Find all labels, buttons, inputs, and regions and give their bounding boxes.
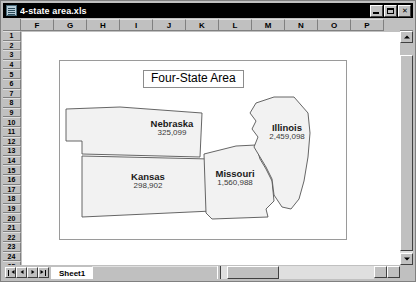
row-header-6[interactable]: 6 <box>3 79 21 89</box>
column-header-g[interactable]: G <box>54 19 87 31</box>
chart-title: Four-State Area <box>143 70 244 88</box>
row-header-21[interactable]: 21 <box>3 223 21 233</box>
column-header-n[interactable]: N <box>285 19 318 31</box>
column-header-j[interactable]: J <box>153 19 186 31</box>
scroll-up-button[interactable] <box>400 31 413 43</box>
row-header-5[interactable]: 5 <box>3 69 21 79</box>
label-nebraska: Nebraska 325,099 <box>122 119 222 137</box>
label-missouri-value: 1,560,988 <box>190 179 280 187</box>
row-header-24[interactable]: 24 <box>3 252 21 262</box>
row-header-2[interactable]: 2 <box>3 41 21 51</box>
row-header-14[interactable]: 14 <box>3 156 21 166</box>
horizontal-scrollbar[interactable] <box>217 265 413 279</box>
column-header-p[interactable]: P <box>351 19 384 31</box>
column-header-i[interactable]: I <box>120 19 153 31</box>
window-resize-grip[interactable] <box>400 266 413 279</box>
scroll-left-button[interactable] <box>374 266 387 278</box>
window-title: 4-state area.xls <box>20 6 370 16</box>
row-header-3[interactable]: 3 <box>3 50 21 60</box>
map-chart-object[interactable]: Four-State Area Nebraska 325,099 Kansas … <box>59 60 347 240</box>
row-header-20[interactable]: 20 <box>3 213 21 223</box>
spreadsheet-area: FGHIJKLMNOP 1234567891011121314151617181… <box>3 19 413 279</box>
horizontal-scroll-track[interactable] <box>221 266 374 279</box>
label-illinois-value: 2,459,098 <box>242 133 332 141</box>
column-header-k[interactable]: K <box>186 19 219 31</box>
row-header-13[interactable]: 13 <box>3 146 21 156</box>
column-header-o[interactable]: O <box>318 19 351 31</box>
row-header-10[interactable]: 10 <box>3 117 21 127</box>
excel-workbook-icon <box>6 5 17 16</box>
maximize-button[interactable] <box>384 5 397 17</box>
column-header-l[interactable]: L <box>219 19 252 31</box>
sheet-tab-bar: Sheet1 <box>3 265 413 279</box>
vertical-scroll-track[interactable] <box>400 55 413 265</box>
row-header-1[interactable]: 1 <box>3 31 21 41</box>
window-title-bar: 4-state area.xls ✕ <box>3 3 413 18</box>
row-header-17[interactable]: 17 <box>3 185 21 195</box>
column-header-m[interactable]: M <box>252 19 285 31</box>
window-controls: ✕ <box>370 5 411 17</box>
row-header-4[interactable]: 4 <box>3 60 21 70</box>
row-headers: 1234567891011121314151617181920212223242… <box>3 31 21 271</box>
column-headers: FGHIJKLMNOP <box>21 19 400 31</box>
label-missouri: Missouri 1,560,988 <box>190 169 280 187</box>
close-button[interactable]: ✕ <box>398 5 411 17</box>
row-header-18[interactable]: 18 <box>3 194 21 204</box>
row-header-23[interactable]: 23 <box>3 242 21 252</box>
worksheet-grid[interactable]: Four-State Area Nebraska 325,099 Kansas … <box>22 32 400 277</box>
row-header-19[interactable]: 19 <box>3 204 21 214</box>
next-sheet-button[interactable] <box>27 267 38 278</box>
horizontal-scroll-thumb[interactable] <box>227 266 279 279</box>
row-header-9[interactable]: 9 <box>3 108 21 118</box>
row-header-15[interactable]: 15 <box>3 165 21 175</box>
sheet-tab-sheet1[interactable]: Sheet1 <box>51 267 93 279</box>
vertical-scrollbar[interactable] <box>400 31 413 265</box>
scroll-right-button[interactable] <box>387 266 400 278</box>
row-header-11[interactable]: 11 <box>3 127 21 137</box>
label-kansas: Kansas 298,902 <box>98 172 198 190</box>
column-header-f[interactable]: F <box>21 19 54 31</box>
vertical-scroll-thumb[interactable] <box>400 55 413 251</box>
row-header-7[interactable]: 7 <box>3 89 21 99</box>
excel-window: 4-state area.xls ✕ FGHIJKLMNOP 123456789… <box>0 0 416 282</box>
first-sheet-button[interactable] <box>5 267 16 278</box>
label-kansas-value: 298,902 <box>98 182 198 190</box>
row-header-16[interactable]: 16 <box>3 175 21 185</box>
sheet-tabs: Sheet1 <box>51 265 93 279</box>
minimize-button[interactable] <box>370 5 383 17</box>
header-scroll-pad <box>400 19 413 31</box>
column-header-h[interactable]: H <box>87 19 120 31</box>
label-nebraska-value: 325,099 <box>122 129 222 137</box>
column-header-row: FGHIJKLMNOP <box>3 19 413 31</box>
label-illinois: Illinois 2,459,098 <box>242 123 332 141</box>
sheet-nav-buttons <box>5 267 49 278</box>
scroll-down-button[interactable] <box>400 253 413 265</box>
row-header-8[interactable]: 8 <box>3 98 21 108</box>
row-header-12[interactable]: 12 <box>3 137 21 147</box>
previous-sheet-button[interactable] <box>16 267 27 278</box>
select-all-corner[interactable] <box>3 19 21 31</box>
row-header-22[interactable]: 22 <box>3 232 21 242</box>
last-sheet-button[interactable] <box>38 267 49 278</box>
